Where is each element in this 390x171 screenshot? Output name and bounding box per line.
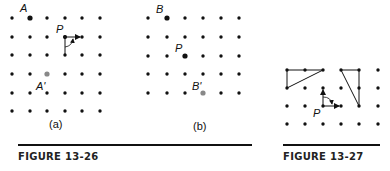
rotation-arc-icon <box>323 97 332 104</box>
label-a-prime: A' <box>35 80 46 92</box>
rotation-arc-icon <box>65 39 73 47</box>
panel-b-label: (b) <box>193 120 206 132</box>
rule-13-26 <box>18 144 252 146</box>
rule-13-27 <box>283 144 380 146</box>
label-p-c: P <box>313 107 321 119</box>
point-a-prime <box>44 71 49 76</box>
label-p-b: P <box>175 42 183 54</box>
point-a <box>27 15 32 20</box>
point-b <box>164 15 169 20</box>
caption-13-26: FIGURE 13-26 <box>18 151 98 162</box>
caption-13-27: FIGURE 13-27 <box>283 151 363 162</box>
dot-grid-13-27 <box>285 68 379 125</box>
label-b: B <box>156 3 163 15</box>
label-p-a: P <box>56 23 64 35</box>
panel-a-label: (a) <box>49 118 62 130</box>
label-b-prime: B' <box>192 80 202 92</box>
panel-b-annotations: B P B' (b) <box>156 3 206 132</box>
triangle-left <box>287 70 323 88</box>
panel-a-annotations: A P A' (a) <box>19 2 80 130</box>
label-a: A <box>19 2 27 14</box>
figure-13-27-annotations: P <box>287 70 359 119</box>
point-p-b <box>182 53 187 58</box>
triangle-right <box>341 70 359 106</box>
